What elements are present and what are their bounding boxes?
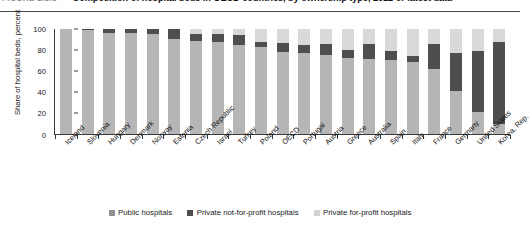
chart-legend: Public hospitalsPrivate not-for-profit h… xyxy=(0,208,520,217)
bar-hungary xyxy=(103,29,115,135)
bar-segment xyxy=(428,44,440,69)
plot-bars xyxy=(55,29,510,135)
bar-segment xyxy=(233,35,245,44)
bar-segment xyxy=(255,29,267,42)
bar-segment xyxy=(125,33,137,134)
bar-segment xyxy=(320,44,332,56)
bar-segment xyxy=(233,45,245,135)
legend-swatch-icon xyxy=(314,210,320,216)
bar-segment xyxy=(342,50,354,57)
bar-segment xyxy=(428,29,440,44)
bar-segment xyxy=(168,39,180,135)
bar-segment xyxy=(407,29,419,56)
figure-number: FIGURE 2.3.3 xyxy=(2,0,57,3)
bar-segment xyxy=(277,43,289,52)
bar-segment xyxy=(428,69,440,134)
legend-swatch-icon xyxy=(109,210,115,216)
bar-segment xyxy=(450,29,462,53)
bar-portugal xyxy=(298,29,310,135)
figure-title: Composition of hospital beds in OECD cou… xyxy=(73,0,453,3)
y-tick-label: 80 xyxy=(38,46,46,55)
bar-austria xyxy=(320,29,332,135)
bar-segment xyxy=(363,59,375,135)
legend-label: Public hospitals xyxy=(118,208,172,217)
bar-slovenia xyxy=(82,29,94,135)
bar-segment xyxy=(472,29,484,51)
bar-greece xyxy=(342,29,354,135)
legend-item-for-profit: Private for-profit hospitals xyxy=(314,208,412,217)
bar-segment xyxy=(385,51,397,59)
bar-segment xyxy=(407,62,419,135)
legend-label: Private for-profit hospitals xyxy=(323,208,411,217)
bar-segment xyxy=(363,44,375,59)
bar-czech-republic xyxy=(190,29,202,135)
bar-segment xyxy=(320,29,332,44)
y-tick-label: 60 xyxy=(38,67,46,76)
y-tick-label: 40 xyxy=(38,88,46,97)
bar-segment xyxy=(342,58,354,135)
figure-title-strip: FIGURE 2.3.3 Composition of hospital bed… xyxy=(0,0,520,11)
bar-segment xyxy=(277,29,289,43)
figure-title-row: FIGURE 2.3.3 Composition of hospital bed… xyxy=(0,0,452,3)
bar-iceland xyxy=(60,29,72,135)
chart-area: Share of hospital beds, percent 02040608… xyxy=(0,12,520,225)
bar-estonia xyxy=(168,29,180,135)
bar-denmark xyxy=(125,29,137,135)
bar-segment xyxy=(82,30,94,134)
legend-label: Private not-for-profit hospitals xyxy=(197,208,299,217)
bar-segment xyxy=(60,29,72,135)
bar-segment xyxy=(385,29,397,51)
bar-australia xyxy=(363,29,375,135)
legend-item-not-for-profit: Private not-for-profit hospitals xyxy=(187,208,298,217)
bar-turkey xyxy=(233,29,245,135)
bar-italy xyxy=(407,29,419,135)
bar-segment xyxy=(342,29,354,50)
bar-oecd xyxy=(277,29,289,135)
legend-swatch-icon xyxy=(187,210,193,216)
bar-germany xyxy=(450,29,462,135)
bar-segment xyxy=(277,52,289,134)
y-tick-label: 20 xyxy=(38,109,46,118)
bar-segment xyxy=(190,41,202,135)
bar-segment xyxy=(363,29,375,44)
bar-segment xyxy=(298,45,310,53)
bar-segment xyxy=(212,34,224,41)
y-axis-label: Share of hospital beds, percent xyxy=(13,8,22,118)
bar-segment xyxy=(472,51,484,112)
x-axis-labels: IcelandSloveniaHungaryDenmarkNorwayEston… xyxy=(0,138,520,196)
bar-france xyxy=(428,29,440,135)
bar-segment xyxy=(493,29,505,42)
y-tick-label: 100 xyxy=(33,25,46,34)
bar-segment xyxy=(298,29,310,45)
bar-poland xyxy=(255,29,267,135)
bar-segment xyxy=(298,53,310,134)
bar-segment xyxy=(255,47,267,135)
y-axis-ticks: 020406080100 xyxy=(24,24,50,134)
legend-item-public: Public hospitals xyxy=(109,208,173,217)
bar-segment xyxy=(450,53,462,91)
bar-segment xyxy=(168,29,180,38)
